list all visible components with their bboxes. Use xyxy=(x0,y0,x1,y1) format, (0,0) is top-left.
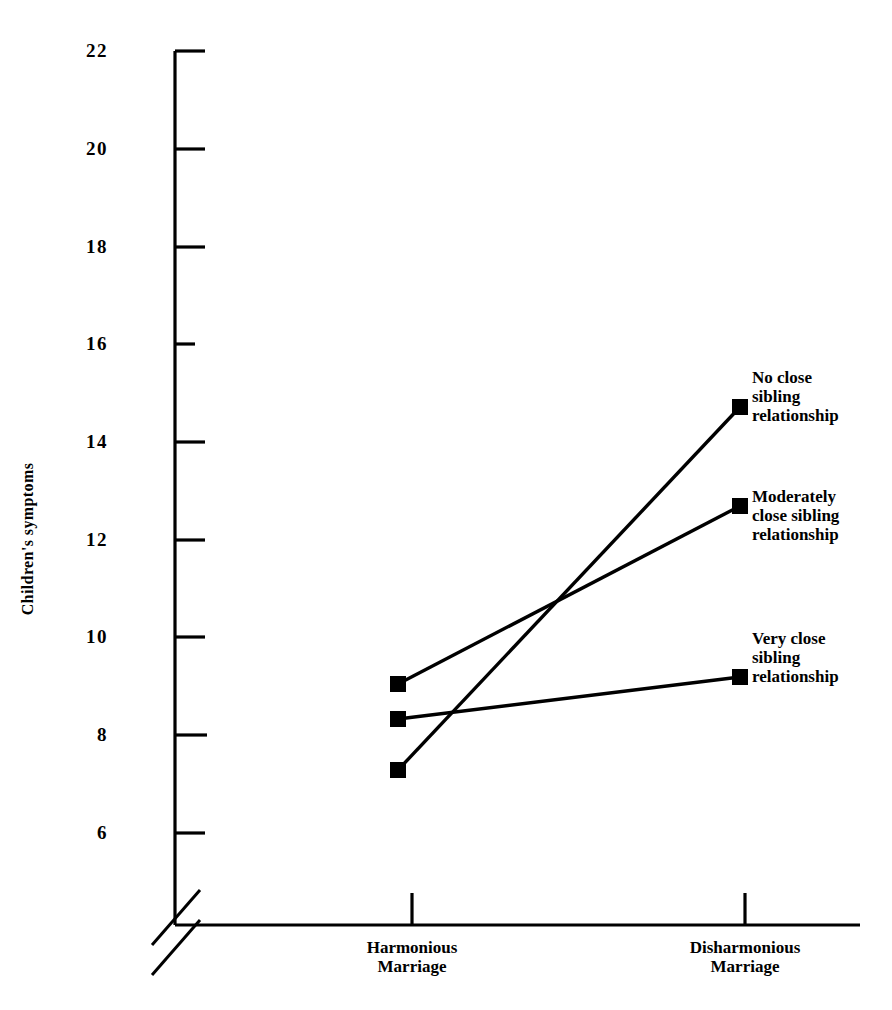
data-point-marker xyxy=(390,711,406,727)
series-label-no-close-sibling: No close sibling relationship xyxy=(752,368,839,425)
data-point-marker xyxy=(732,399,748,415)
line-chart-figure: Children's symptoms 22 20 18 16 14 12 10… xyxy=(0,0,892,1010)
x-axis-ticks xyxy=(412,893,745,925)
series-line-very-close-sibling xyxy=(390,669,748,727)
y-axis-ticks xyxy=(175,51,207,833)
series-label-very-close-sibling: Very close sibling relationship xyxy=(752,629,839,686)
data-point-marker xyxy=(732,498,748,514)
data-point-marker xyxy=(390,762,406,778)
series-line-moderately-close-sibling xyxy=(390,498,748,692)
data-point-marker xyxy=(732,669,748,685)
data-point-marker xyxy=(390,676,406,692)
x-tick-label-disharmonious-marriage: Disharmonious Marriage xyxy=(630,938,860,976)
x-tick-label-harmonious-marriage: Harmonious Marriage xyxy=(297,938,527,976)
series-label-moderately-close-sibling: Moderately close sibling relationship xyxy=(752,487,839,544)
series-line-no-close-sibling xyxy=(390,399,748,778)
